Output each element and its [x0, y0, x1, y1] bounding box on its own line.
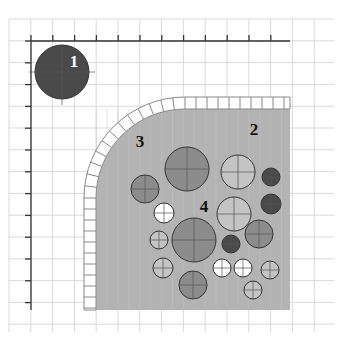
circle-marker [179, 271, 207, 299]
quadrant-diagram: 1234 [0, 0, 341, 347]
circle-marker [222, 235, 240, 253]
diagram-canvas: 1234 [0, 0, 341, 347]
circle-marker [221, 155, 255, 189]
region-label-1: 1 [70, 52, 79, 71]
circle-marker [213, 259, 231, 277]
circle-marker [261, 194, 281, 214]
circle-marker [29, 45, 95, 105]
circle-marker [150, 231, 168, 249]
circle-marker [154, 203, 174, 223]
circle-marker [172, 218, 216, 262]
circle-marker [245, 220, 273, 248]
region-label-2: 2 [250, 120, 259, 139]
region-label-4: 4 [200, 197, 209, 216]
circle-marker [131, 175, 159, 203]
circle-marker [262, 168, 280, 186]
region-label-3: 3 [136, 132, 145, 151]
circle-marker [234, 259, 252, 277]
circle-marker [217, 197, 251, 231]
circle-marker [165, 147, 209, 191]
circle-marker [153, 258, 173, 278]
circle-marker [244, 281, 262, 299]
circle-marker [261, 261, 279, 279]
